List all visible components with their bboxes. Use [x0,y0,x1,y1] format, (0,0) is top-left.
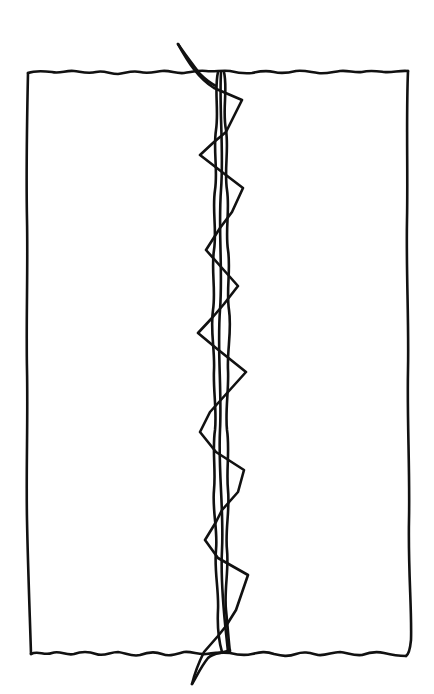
thread-tail-top [178,44,216,86]
center-seam [212,72,230,652]
fabric-left-edge [27,73,31,654]
fabric-right-edge [406,71,411,656]
zigzag-stitch-diagram [0,0,434,694]
